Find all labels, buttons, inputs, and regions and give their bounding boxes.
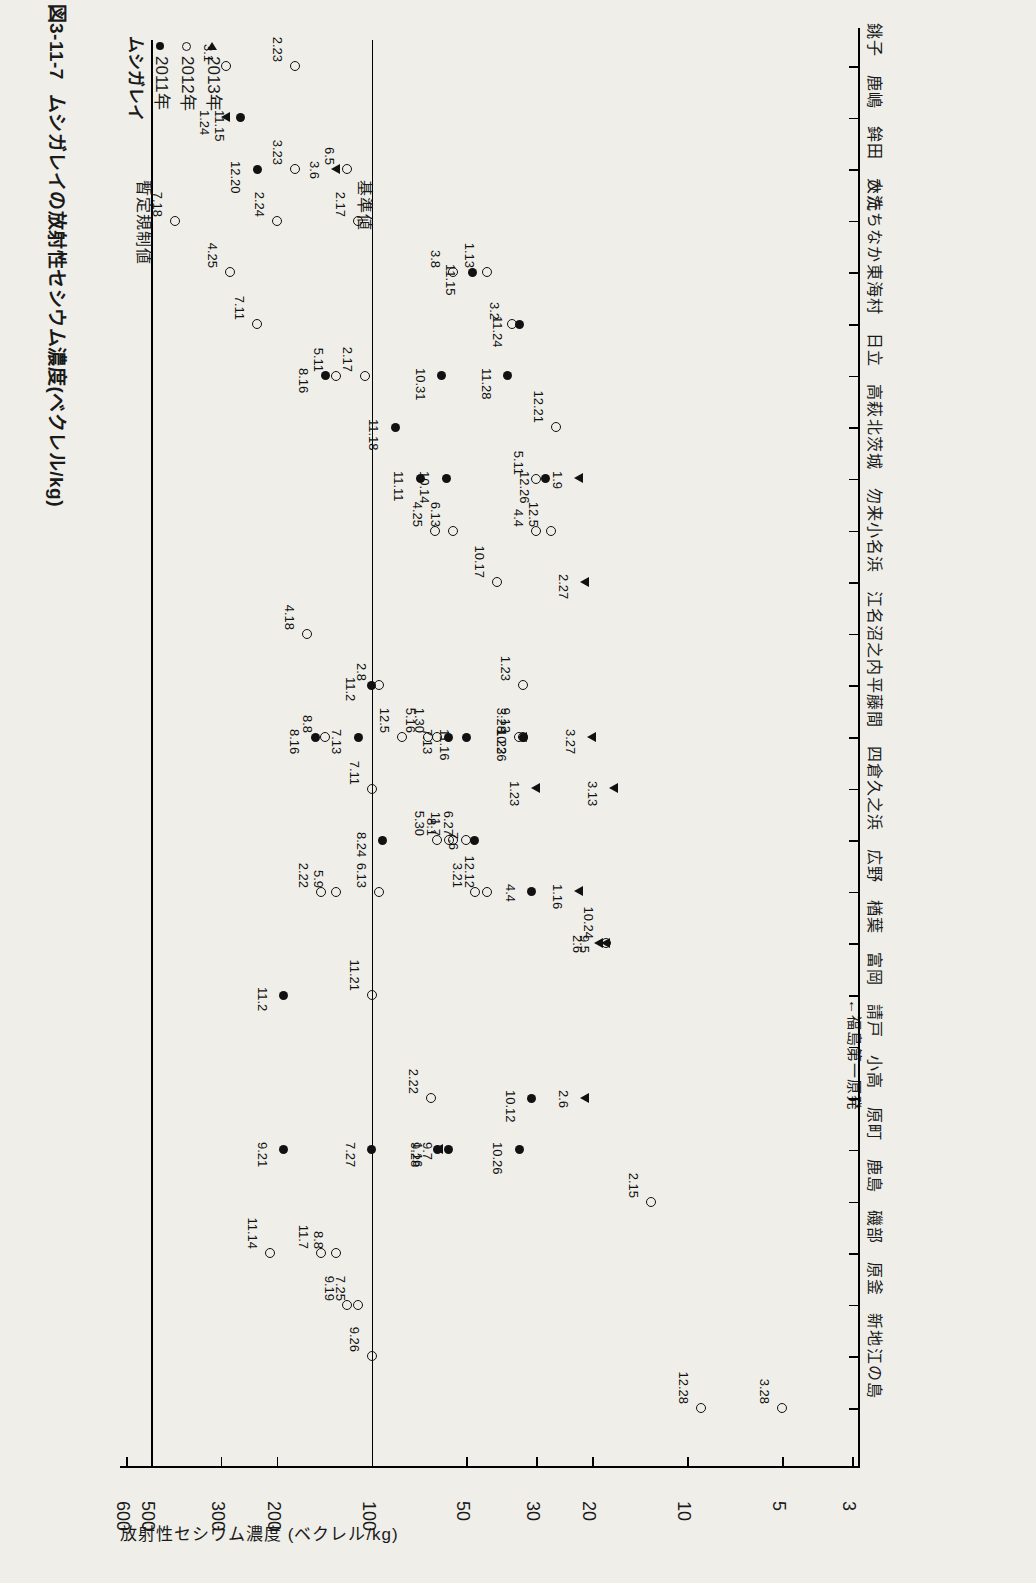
data-point-label: 1.24 bbox=[197, 110, 212, 135]
category-label: 沼之内 bbox=[866, 625, 882, 676]
category-tick bbox=[849, 685, 860, 687]
value-tick bbox=[466, 1457, 468, 1468]
value-tick bbox=[687, 1457, 689, 1468]
data-point-marker bbox=[531, 526, 541, 536]
data-point-marker bbox=[462, 733, 471, 742]
data-point-label: 7.25 bbox=[333, 1275, 348, 1300]
value-tick-label: 500 bbox=[137, 1501, 158, 1531]
category-tick bbox=[849, 892, 860, 894]
data-point-marker bbox=[696, 1403, 706, 1413]
category-label: 富岡 bbox=[866, 952, 882, 986]
data-point-marker bbox=[253, 165, 262, 174]
category-label: 原町 bbox=[866, 1107, 882, 1141]
category-tick bbox=[849, 479, 860, 481]
data-point-label: 10.14 bbox=[417, 471, 432, 504]
data-point-marker bbox=[353, 1300, 363, 1310]
data-point-marker bbox=[354, 733, 363, 742]
figure-number: 図3-11-7 bbox=[46, 4, 67, 80]
data-point-label: 12.26 bbox=[517, 471, 532, 504]
data-point-label: 5.9 bbox=[311, 870, 326, 888]
data-point-label: 8.8 bbox=[311, 1231, 326, 1249]
data-point-label: 7.11 bbox=[347, 760, 362, 784]
data-point-marker bbox=[426, 1093, 436, 1103]
data-point-label: 11.7 bbox=[296, 1225, 311, 1249]
data-point-marker bbox=[331, 371, 341, 381]
category-label: 平藤間 bbox=[866, 677, 882, 728]
data-point-marker bbox=[279, 991, 288, 1000]
data-point-label: 4.18 bbox=[282, 604, 297, 629]
data-point-marker bbox=[515, 1145, 524, 1154]
data-point-label: 5.11 bbox=[511, 451, 526, 475]
value-tick-label: 5 bbox=[768, 1501, 789, 1511]
data-point-label: 12.12 bbox=[462, 855, 477, 888]
data-point-marker bbox=[236, 113, 245, 122]
category-label: 新地 bbox=[866, 1313, 882, 1347]
data-point-label: 6.27 bbox=[441, 811, 456, 836]
data-point-marker bbox=[331, 164, 340, 174]
data-point-marker bbox=[518, 680, 528, 690]
data-point-marker bbox=[316, 1248, 326, 1258]
plot-area: 銚子鹿嶋鉾田大洗ひたちなか東海村日立高萩北茨城勿来小名浜江名沼之内平藤間四倉久之… bbox=[120, 28, 860, 1468]
data-point-label: 2.23 bbox=[270, 37, 285, 62]
data-point-marker bbox=[434, 1144, 443, 1154]
value-tick-label: 200 bbox=[263, 1501, 284, 1531]
data-point-label: 2.17 bbox=[333, 192, 348, 217]
data-point-marker bbox=[225, 267, 235, 277]
data-point-marker bbox=[342, 1300, 352, 1310]
data-point-label: 10.26 bbox=[490, 1142, 505, 1175]
category-label: ひたちなか bbox=[866, 178, 882, 263]
data-point-label: 1.9 bbox=[550, 471, 565, 489]
data-point-label: 7.13 bbox=[329, 729, 344, 754]
data-point-label: 1.23 bbox=[498, 656, 513, 681]
data-point-label: 1.23 bbox=[507, 781, 522, 806]
category-tick bbox=[849, 1253, 860, 1255]
data-point-marker bbox=[551, 422, 561, 432]
data-point-label: 1.23 bbox=[494, 729, 509, 754]
data-point-marker bbox=[470, 836, 479, 845]
value-tick-label: 600 bbox=[112, 1501, 133, 1531]
data-point-label: 12.28 bbox=[676, 1371, 691, 1404]
data-point-marker bbox=[279, 1145, 288, 1154]
data-point-marker bbox=[482, 887, 492, 897]
data-point-label: 10.12 bbox=[503, 1090, 518, 1123]
category-label: 広野 bbox=[866, 849, 882, 883]
data-point-marker bbox=[470, 887, 480, 897]
category-label: 鹿島 bbox=[866, 1159, 882, 1193]
data-point-label: 1.30 bbox=[412, 708, 427, 733]
category-label: 北茨城 bbox=[866, 419, 882, 470]
data-point-marker bbox=[468, 268, 477, 277]
value-axis-label: 放射性セシウム濃度 (ベクレル/kg) bbox=[120, 1520, 399, 1545]
data-point-marker bbox=[170, 216, 180, 226]
data-point-marker bbox=[580, 577, 589, 587]
category-tick bbox=[849, 66, 860, 68]
data-point-label: 10.17 bbox=[472, 546, 487, 579]
data-point-label: 3.28 bbox=[757, 1379, 772, 1404]
value-tick-label: 300 bbox=[207, 1501, 228, 1531]
category-tick bbox=[849, 995, 860, 997]
data-point-marker bbox=[311, 733, 320, 742]
data-point-label: 9.5 bbox=[577, 935, 592, 953]
category-tick bbox=[849, 1202, 860, 1204]
data-point-label: 3.6 bbox=[307, 161, 322, 179]
data-point-label: 2.8 bbox=[354, 663, 369, 681]
category-tick bbox=[849, 169, 860, 171]
category-tick bbox=[849, 324, 860, 326]
data-point-label: 7.27 bbox=[343, 1142, 358, 1167]
data-point-marker bbox=[391, 423, 400, 432]
data-point-label: 12.5 bbox=[526, 501, 541, 526]
category-tick bbox=[849, 582, 860, 584]
category-label: 江名 bbox=[866, 591, 882, 625]
data-point-marker bbox=[601, 938, 610, 948]
category-label: 高萩 bbox=[866, 384, 882, 418]
category-tick bbox=[849, 427, 860, 429]
data-point-label: 11.14 bbox=[245, 1218, 260, 1250]
category-tick bbox=[849, 1305, 860, 1307]
data-point-marker bbox=[482, 267, 492, 277]
category-label: 原釜 bbox=[866, 1262, 882, 1296]
data-point-marker bbox=[221, 61, 231, 71]
data-point-marker bbox=[397, 732, 407, 742]
category-label: 久之浜 bbox=[866, 780, 882, 831]
data-point-label: 9.26 bbox=[347, 1327, 362, 1352]
category-tick bbox=[849, 1098, 860, 1100]
data-point-label: 11.24 bbox=[490, 316, 505, 348]
